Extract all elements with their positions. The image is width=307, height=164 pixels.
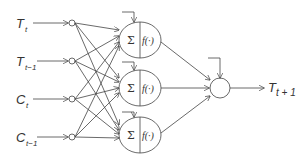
output-label: T t + 1	[268, 80, 296, 98]
hidden-bias-arrows	[122, 12, 134, 117]
output-bias-arrow	[208, 58, 220, 78]
neural-network-diagram: T t T t−1 C t C t−1	[0, 0, 307, 164]
input-hidden-connections	[75, 23, 119, 138]
svg-text:T: T	[16, 16, 25, 31]
svg-text:f(·): f(·)	[142, 35, 155, 47]
svg-text:t: t	[25, 25, 28, 34]
svg-text:t: t	[26, 101, 29, 110]
svg-text:f(·): f(·)	[142, 130, 155, 142]
input-node	[69, 20, 75, 26]
svg-text:f(·): f(·)	[142, 83, 155, 95]
svg-text:Σ: Σ	[127, 34, 135, 47]
svg-text:t−1: t−1	[26, 139, 37, 148]
svg-text:t−1: t−1	[25, 63, 36, 72]
input-nodes	[69, 20, 75, 140]
svg-text:Σ: Σ	[127, 82, 135, 95]
svg-text:Σ: Σ	[127, 129, 135, 142]
output-node	[210, 78, 230, 98]
input-label-c-t: C t	[16, 92, 29, 110]
input-arrows	[33, 23, 68, 137]
hidden-output-connections	[161, 42, 210, 133]
svg-text:T: T	[16, 54, 25, 69]
input-node	[69, 134, 75, 140]
hidden-node-3: Σ f(·)	[119, 117, 161, 153]
svg-text:C: C	[16, 130, 26, 145]
input-label-t: T t	[16, 16, 28, 34]
input-node	[69, 96, 75, 102]
input-node	[69, 58, 75, 64]
input-label-c-t-minus-1: C t−1	[16, 130, 37, 148]
svg-text:t + 1: t + 1	[276, 87, 296, 98]
hidden-node-2: Σ f(·)	[119, 70, 161, 106]
svg-text:C: C	[16, 92, 26, 107]
input-label-t-minus-1: T t−1	[16, 54, 36, 72]
hidden-node-1: Σ f(·)	[119, 22, 161, 58]
